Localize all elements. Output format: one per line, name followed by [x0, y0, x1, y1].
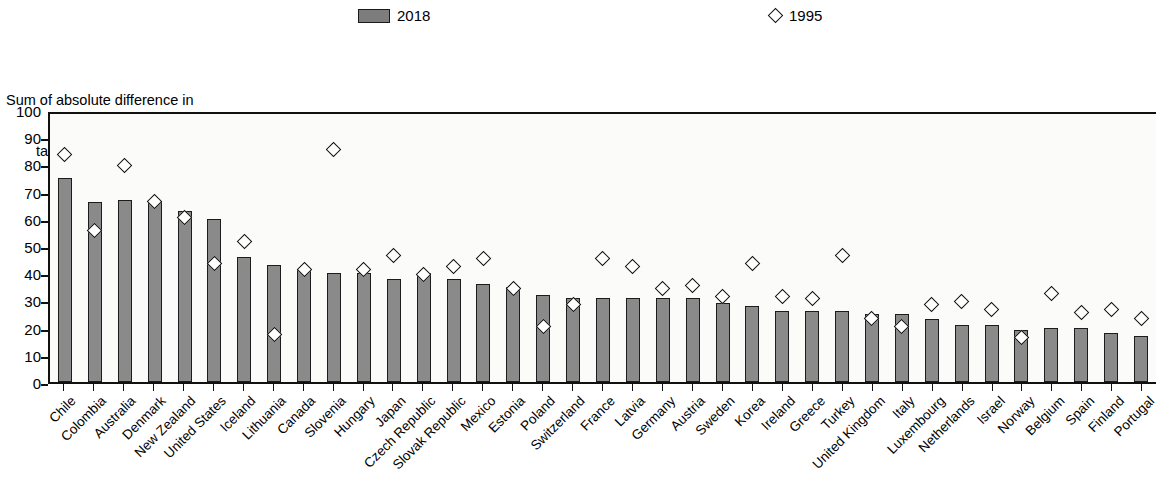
bar-2018[interactable] [835, 311, 849, 382]
bar-2018[interactable] [985, 325, 999, 382]
marker-1995[interactable] [1103, 302, 1119, 318]
marker-1995[interactable] [984, 302, 1000, 318]
bar-group[interactable] [917, 114, 947, 382]
marker-1995[interactable] [446, 259, 462, 275]
bar-group[interactable] [1036, 114, 1066, 382]
bar-2018[interactable] [716, 303, 730, 382]
marker-1995[interactable] [476, 250, 492, 266]
bar-2018[interactable] [686, 298, 700, 382]
x-tick-mark [333, 384, 334, 391]
bar-group[interactable] [1126, 114, 1156, 382]
bar-2018[interactable] [327, 273, 341, 382]
bar-group[interactable] [80, 114, 110, 382]
bar-2018[interactable] [297, 270, 311, 382]
x-label-slot: Switzerland [557, 392, 587, 492]
bar-group[interactable] [648, 114, 678, 382]
bar-group[interactable] [50, 114, 80, 382]
bar-group[interactable] [110, 114, 140, 382]
bar-2018[interactable] [745, 306, 759, 382]
bar-group[interactable] [887, 114, 917, 382]
x-label-slot: Sweden [707, 392, 737, 492]
marker-1995[interactable] [1073, 305, 1089, 321]
bar-2018[interactable] [178, 211, 192, 382]
bar-2018[interactable] [207, 219, 221, 382]
x-tick-slot [288, 384, 318, 391]
bar-group[interactable] [797, 114, 827, 382]
bar-group[interactable] [259, 114, 289, 382]
x-tick-slot [647, 384, 677, 391]
bar-group[interactable] [528, 114, 558, 382]
bar-2018[interactable] [1074, 328, 1088, 382]
marker-1995[interactable] [1044, 286, 1060, 302]
bar-2018[interactable] [925, 319, 939, 382]
y-tick-label: 100 [16, 104, 41, 119]
marker-1995[interactable] [715, 288, 731, 304]
marker-1995[interactable] [1133, 310, 1149, 326]
marker-1995[interactable] [685, 278, 701, 294]
bar-group[interactable] [199, 114, 229, 382]
bar-2018[interactable] [536, 295, 550, 382]
bar-2018[interactable] [775, 311, 789, 382]
marker-1995[interactable] [595, 250, 611, 266]
bar-2018[interactable] [1134, 336, 1148, 382]
bar-2018[interactable] [955, 325, 969, 382]
bar-group[interactable] [1007, 114, 1037, 382]
marker-1995[interactable] [237, 234, 253, 250]
bar-group[interactable] [349, 114, 379, 382]
bar-group[interactable] [678, 114, 708, 382]
marker-1995[interactable] [804, 291, 820, 307]
bar-group[interactable] [319, 114, 349, 382]
bar-group[interactable] [588, 114, 618, 382]
bar-group[interactable] [140, 114, 170, 382]
x-tick-mark [452, 384, 453, 391]
marker-1995[interactable] [57, 147, 73, 163]
bar-2018[interactable] [447, 279, 461, 382]
bar-group[interactable] [947, 114, 977, 382]
bar-group[interactable] [468, 114, 498, 382]
bar-group[interactable] [409, 114, 439, 382]
marker-1995[interactable] [625, 259, 641, 275]
bar-2018[interactable] [267, 265, 281, 382]
bar-2018[interactable] [656, 298, 670, 382]
marker-1995[interactable] [745, 256, 761, 272]
bar-group[interactable] [708, 114, 738, 382]
bar-2018[interactable] [626, 298, 640, 382]
bar-2018[interactable] [805, 311, 819, 382]
bar-2018[interactable] [1104, 333, 1118, 382]
bar-group[interactable] [379, 114, 409, 382]
bar-group[interactable] [827, 114, 857, 382]
bar-2018[interactable] [596, 298, 610, 382]
bar-2018[interactable] [58, 178, 72, 382]
bar-2018[interactable] [506, 287, 520, 382]
bar-2018[interactable] [237, 257, 251, 382]
bar-group[interactable] [737, 114, 767, 382]
bar-group[interactable] [229, 114, 259, 382]
bar-2018[interactable] [357, 273, 371, 382]
marker-1995[interactable] [386, 248, 402, 264]
marker-1995[interactable] [954, 294, 970, 310]
bar-group[interactable] [558, 114, 588, 382]
marker-1995[interactable] [117, 158, 133, 174]
bar-group[interactable] [498, 114, 528, 382]
bar-group[interactable] [977, 114, 1007, 382]
bar-group[interactable] [170, 114, 200, 382]
bar-2018[interactable] [417, 273, 431, 382]
bar-group[interactable] [289, 114, 319, 382]
bar-2018[interactable] [148, 202, 162, 382]
bar-2018[interactable] [118, 200, 132, 382]
marker-1995[interactable] [775, 288, 791, 304]
bar-2018[interactable] [476, 284, 490, 382]
bar-group[interactable] [857, 114, 887, 382]
bar-group[interactable] [1096, 114, 1126, 382]
bar-group[interactable] [767, 114, 797, 382]
bar-group[interactable] [439, 114, 469, 382]
bar-2018[interactable] [387, 279, 401, 382]
bar-2018[interactable] [1044, 328, 1058, 382]
bar-group[interactable] [618, 114, 648, 382]
marker-1995[interactable] [834, 248, 850, 264]
marker-1995[interactable] [655, 280, 671, 296]
marker-1995[interactable] [924, 297, 940, 313]
marker-1995[interactable] [326, 142, 342, 158]
bar-group[interactable] [1066, 114, 1096, 382]
y-tick-label: 80 [24, 158, 41, 173]
